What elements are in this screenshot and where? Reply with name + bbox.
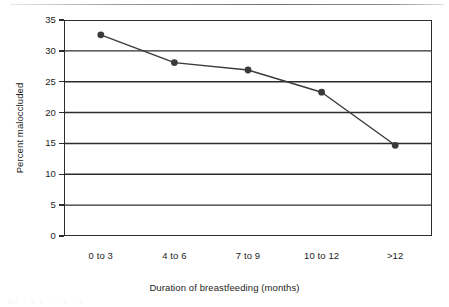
y-tick-label-25: 25: [30, 77, 56, 87]
y-tick-mark-30: [59, 50, 64, 52]
y-tick-label-15: 15: [30, 138, 56, 148]
y-tick-mark-15: [59, 143, 64, 145]
y-tick-label-10: 10: [30, 169, 56, 179]
data-point-10-to-12: 10 to 12: 23.3: [318, 89, 325, 96]
series-markers-group: 0 to 3: 32.64 to 6: 28.17 to 9: 26.910 t…: [97, 31, 398, 148]
series-group: 0 to 3: 32.64 to 6: 28.17 to 9: 26.910 t…: [97, 31, 398, 148]
chart-figure: 0 to 3: 32.64 to 6: 28.17 to 9: 26.910 t…: [0, 0, 449, 307]
page-caption-artifact: NL - L L - - L - L: [8, 298, 85, 306]
x-tick-label-7-to-9: 7 to 9: [236, 250, 260, 261]
y-tick-mark-20: [59, 112, 64, 114]
x-tick-label-10-to-12: 10 to 12: [304, 250, 339, 261]
y-tick-label-20: 20: [30, 108, 56, 118]
y-tick-mark-10: [59, 174, 64, 176]
gridlines-group: [64, 51, 432, 205]
y-tick-label-35: 35: [30, 15, 56, 25]
x-tick-label-0-to-3: 0 to 3: [89, 250, 113, 261]
y-tick-label-5: 5: [30, 200, 56, 210]
y-tick-mark-25: [59, 81, 64, 83]
y-tick-label-30: 30: [30, 46, 56, 56]
y-tick-mark-5: [59, 204, 64, 206]
data-point--12: >12: 14.7: [392, 142, 399, 149]
y-tick-mark-35: [59, 19, 64, 21]
plot-area: 0 to 3: 32.64 to 6: 28.17 to 9: 26.910 t…: [64, 20, 432, 236]
y-axis-title: Percent maloccluded: [14, 66, 25, 190]
y-tick-mark-0: [59, 235, 64, 237]
data-point-0-to-3: 0 to 3: 32.6: [97, 31, 104, 38]
data-point-7-to-9: 7 to 9: 26.9: [245, 67, 252, 74]
data-point-4-to-6: 4 to 6: 28.1: [171, 59, 178, 66]
x-axis-title: Duration of breastfeeding (months): [0, 282, 449, 293]
x-tick-label--12: >12: [387, 250, 403, 261]
x-tick-label-4-to-6: 4 to 6: [162, 250, 186, 261]
y-tick-label-0: 0: [30, 231, 56, 241]
